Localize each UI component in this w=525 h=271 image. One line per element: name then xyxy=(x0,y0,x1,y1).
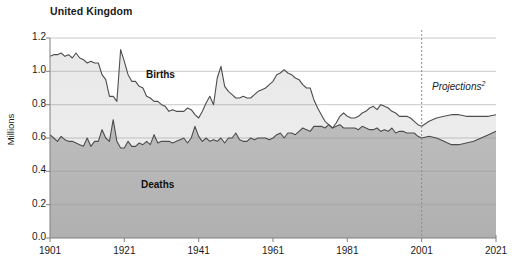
chart-container: United Kingdom Millions 0.00.20.40.60.81… xyxy=(0,0,525,271)
x-tick-label-1901: 1901 xyxy=(28,245,72,256)
projections-annotation: Projections2 xyxy=(432,80,485,92)
x-tick-label-1981: 1981 xyxy=(325,245,369,256)
series-label-deaths: Deaths xyxy=(141,179,174,190)
series-label-births: Births xyxy=(146,69,175,80)
x-tick-label-1941: 1941 xyxy=(177,245,221,256)
x-tick-label-1921: 1921 xyxy=(102,245,146,256)
projections-annotation-text: Projections xyxy=(432,81,481,92)
x-tick-label-2021: 2021 xyxy=(474,245,518,256)
x-tick-label-2001: 2001 xyxy=(400,245,444,256)
projections-annotation-superscript: 2 xyxy=(481,80,485,87)
x-axis-tick-labels: 1901192119411961198120012021 xyxy=(0,0,525,271)
x-tick-label-1961: 1961 xyxy=(251,245,295,256)
